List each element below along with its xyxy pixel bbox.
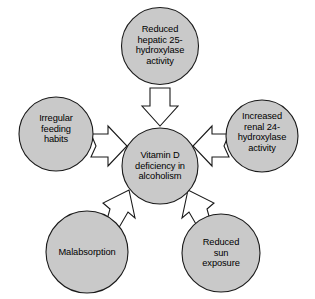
diagram-graphics [0,0,315,299]
node-circle-increased-renal-hydroxylase[interactable] [226,100,298,172]
node-circle-reduced-sun-exposure[interactable] [182,214,260,292]
node-circle-vitamin-d-deficiency[interactable] [122,128,198,204]
node-circle-malabsorption[interactable] [46,211,128,293]
node-circle-reduced-hepatic-hydroxylase[interactable] [122,8,199,85]
arrow-left-right-icon [91,126,127,166]
diagram-canvas: Reduced hepatic 25- hydroxylase activity… [0,0,315,299]
arrow-top-down-icon [142,88,178,126]
node-circle-irregular-feeding-habits[interactable] [19,97,93,171]
arrow-right-left-icon [193,126,229,166]
